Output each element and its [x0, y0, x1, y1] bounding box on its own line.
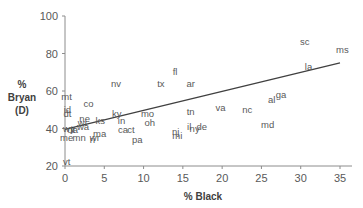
data-point-label: fl: [173, 66, 178, 77]
data-point-label: oh: [145, 117, 156, 128]
trendline: [65, 63, 340, 130]
y-tick-label: 40: [46, 123, 58, 135]
data-point-label: de: [196, 121, 207, 132]
scatter-chart: 2040608010005101520253035% Black%Bryan(D…: [0, 0, 363, 208]
data-point-label: dt: [63, 108, 71, 119]
data-point-label: va: [216, 102, 227, 113]
data-point-label: tx: [157, 78, 165, 89]
data-point-label: tn: [187, 106, 195, 117]
data-point-label: nc: [242, 104, 252, 115]
plot-area: 2040608010005101520253035% Black%Bryan(D…: [0, 0, 363, 208]
y-tick-label: 60: [46, 85, 58, 97]
data-point-label: mt: [61, 91, 72, 102]
data-point-label: ks: [96, 115, 106, 126]
data-point-label: wi: [77, 117, 87, 128]
data-point-label: ms: [336, 44, 349, 55]
y-axis-title: Bryan: [8, 92, 36, 103]
data-point-label: ga: [276, 89, 287, 100]
data-point-label: mn: [73, 132, 86, 143]
y-tick-label: 80: [46, 48, 58, 60]
x-tick-label: 25: [255, 172, 267, 184]
x-tick-label: 35: [334, 172, 346, 184]
data-point-label: mi: [172, 130, 182, 141]
x-tick-label: 15: [177, 172, 189, 184]
data-point-label: nv: [111, 78, 121, 89]
y-tick-label: 20: [46, 160, 58, 172]
x-tick-label: 30: [295, 172, 307, 184]
x-tick-label: 0: [62, 172, 68, 184]
x-tick-label: 20: [216, 172, 228, 184]
data-point-label: la: [305, 61, 313, 72]
data-point-label: md: [261, 119, 274, 130]
data-point-label: sc: [300, 36, 310, 47]
data-point-label: pa: [132, 134, 143, 145]
data-point-label: ma: [93, 128, 107, 139]
x-tick-label: 5: [101, 172, 107, 184]
y-axis-title: (D): [15, 105, 29, 116]
data-point-label: vt: [63, 156, 71, 167]
x-axis-title: % Black: [184, 191, 223, 202]
data-point-label: al: [268, 94, 275, 105]
data-point-label: co: [84, 98, 94, 109]
x-tick-label: 10: [137, 172, 149, 184]
y-axis-title: %: [18, 79, 27, 90]
y-tick-label: 100: [40, 10, 58, 22]
data-point-label: ar: [186, 78, 194, 89]
